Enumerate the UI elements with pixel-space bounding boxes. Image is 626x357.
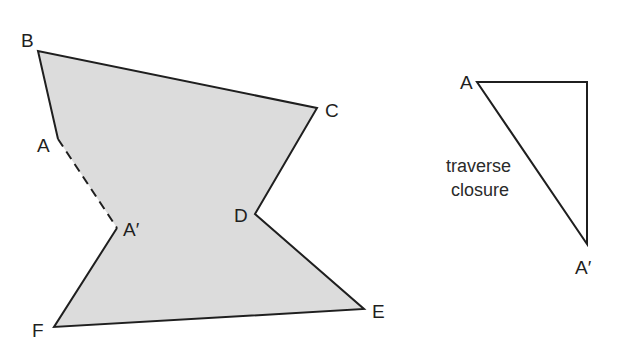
traverse-diagram: B C D E F A′ A A A′ traverse closure <box>0 0 626 357</box>
vertex-label-d: D <box>234 205 248 226</box>
vertex-label-a-prime: A′ <box>123 219 140 240</box>
vertex-label-b: B <box>21 30 34 51</box>
vertex-label-a: A <box>37 135 50 156</box>
traverse-closure-annotation-line1: traverse <box>446 156 511 176</box>
closure-triangle-label-a-prime: A′ <box>575 257 592 278</box>
vertex-label-e: E <box>372 301 385 322</box>
traverse-closure-annotation-line2: closure <box>451 180 509 200</box>
vertex-label-c: C <box>325 100 339 121</box>
traverse-area <box>38 51 364 327</box>
vertex-label-f: F <box>32 320 44 341</box>
closure-triangle-label-a: A <box>460 72 473 93</box>
